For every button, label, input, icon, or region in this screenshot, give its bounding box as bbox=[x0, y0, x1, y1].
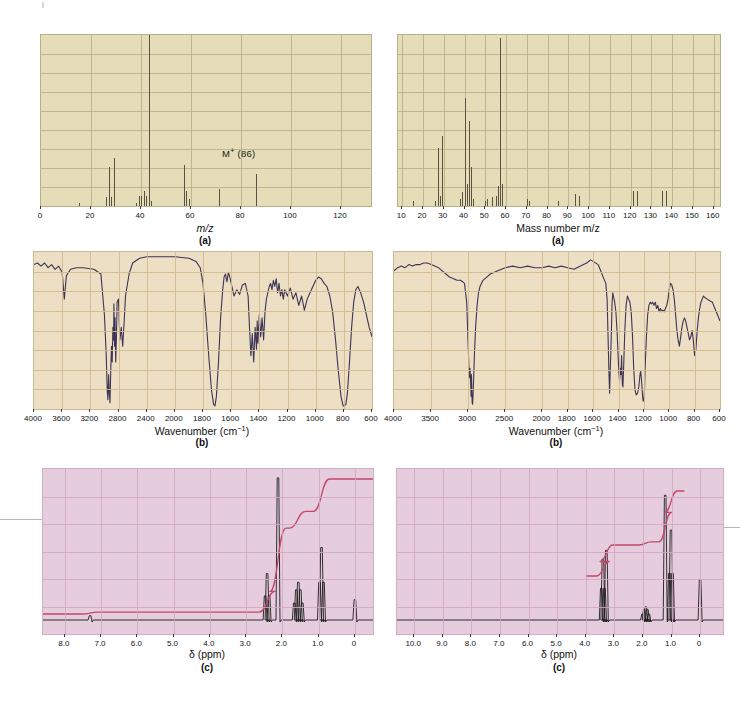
tickmark-10 bbox=[699, 634, 700, 637]
tickmark-2 bbox=[140, 206, 141, 209]
nmr-spectrum-line bbox=[43, 478, 373, 622]
tickmark-4 bbox=[528, 634, 529, 637]
gridline-h-0 bbox=[398, 54, 720, 55]
gridline-h-2 bbox=[34, 311, 372, 312]
ms-peak bbox=[496, 196, 497, 206]
tickmark-4 bbox=[484, 206, 485, 209]
ms-peak bbox=[467, 184, 468, 206]
gridline-h-2 bbox=[394, 311, 720, 312]
tick-label-3: 2800 bbox=[109, 414, 127, 423]
gridline-h-2 bbox=[43, 552, 373, 553]
tick-label-0: 4000 bbox=[384, 414, 402, 423]
ms-peak bbox=[460, 199, 461, 206]
tick-label-9: 1000 bbox=[659, 414, 677, 423]
tickmark-5 bbox=[556, 634, 557, 637]
tickmark-10 bbox=[694, 409, 695, 412]
tickmark-5 bbox=[290, 206, 291, 209]
ms-peak bbox=[500, 38, 501, 206]
ir-right-sublabel: (b) bbox=[393, 437, 719, 448]
tick-label-3: 7.0 bbox=[493, 639, 504, 648]
gridline-h-4 bbox=[398, 130, 720, 131]
gridline-v-12 bbox=[651, 35, 652, 206]
tick-label-1: 9.0 bbox=[436, 639, 447, 648]
ms-peak bbox=[111, 197, 112, 206]
ms-peak bbox=[184, 165, 185, 206]
tick-label-1: 20 bbox=[86, 211, 95, 220]
gridline-h-7 bbox=[41, 187, 371, 188]
gridline-v-6 bbox=[527, 35, 528, 206]
tickmark-4 bbox=[541, 409, 542, 412]
panel-nmr-right: 10.09.08.07.06.05.04.03.02.01.00 δ (ppm)… bbox=[396, 468, 722, 678]
scan-artifact-top bbox=[42, 2, 44, 8]
gridline-v-15 bbox=[714, 35, 715, 206]
ms-peak bbox=[256, 174, 257, 207]
tick-label-11: 600 bbox=[712, 414, 725, 423]
gridline-v-10 bbox=[610, 35, 611, 206]
ms-peak bbox=[575, 194, 576, 206]
gridline-v-3 bbox=[241, 35, 242, 206]
tick-label-5: 60 bbox=[501, 211, 510, 220]
gridline-h-4 bbox=[34, 350, 372, 351]
gridline-h-0 bbox=[43, 497, 373, 498]
tickmark-13 bbox=[671, 206, 672, 209]
ms-peak bbox=[144, 191, 145, 206]
nmr-left-axis-title-text: δ (ppm) bbox=[189, 648, 225, 660]
tick-label-2: 8.0 bbox=[465, 639, 476, 648]
ms-peak bbox=[666, 191, 667, 206]
ms-right-plot-area bbox=[397, 34, 721, 207]
ms-peak bbox=[219, 189, 220, 206]
tick-label-7: 1600 bbox=[221, 414, 239, 423]
tickmark-1 bbox=[90, 206, 91, 209]
tickmark-0 bbox=[413, 634, 414, 637]
tickmark-3 bbox=[118, 409, 119, 412]
tick-label-11: 120 bbox=[623, 211, 636, 220]
gridline-h-4 bbox=[394, 350, 720, 351]
gridline-h-1 bbox=[34, 291, 372, 292]
tick-label-12: 600 bbox=[364, 414, 377, 423]
tickmark-6 bbox=[526, 206, 527, 209]
nmr-right-sublabel: (c) bbox=[396, 662, 722, 673]
ms-peak bbox=[498, 186, 499, 207]
tick-label-4: 2400 bbox=[137, 414, 155, 423]
tick-label-1: 20 bbox=[417, 211, 426, 220]
tickmark-4 bbox=[240, 206, 241, 209]
tickmark-0 bbox=[393, 409, 394, 412]
gridline-h-3 bbox=[398, 111, 720, 112]
gridline-h-3 bbox=[34, 331, 372, 332]
tick-label-3: 5.0 bbox=[167, 639, 178, 648]
gridline-h-6 bbox=[398, 168, 720, 169]
ms-peak bbox=[637, 191, 638, 206]
tick-label-6: 1600 bbox=[583, 414, 601, 423]
tick-label-9: 1200 bbox=[278, 414, 296, 423]
tickmark-7 bbox=[230, 409, 231, 412]
ms-peak bbox=[141, 196, 142, 206]
ir-left-axis-title-text: Wavenumber (cm−1) bbox=[155, 425, 250, 437]
ms-left-axis-title-text: m/z bbox=[197, 222, 214, 234]
gridline-v-2 bbox=[191, 35, 192, 206]
ms-annotation-0: M+ (86) bbox=[222, 146, 255, 159]
tick-label-5: 3.0 bbox=[240, 639, 251, 648]
tickmark-8 bbox=[643, 409, 644, 412]
tickmark-5 bbox=[567, 409, 568, 412]
tick-label-5: 5.0 bbox=[551, 639, 562, 648]
ms-left-axis-title: m/z bbox=[40, 222, 370, 234]
tick-label-6: 4.0 bbox=[579, 639, 590, 648]
tickmark-8 bbox=[258, 409, 259, 412]
tickmark-10 bbox=[315, 409, 316, 412]
tick-label-0: 0 bbox=[38, 211, 42, 220]
gridline-h-0 bbox=[34, 272, 372, 273]
tick-label-4: 4.0 bbox=[203, 639, 214, 648]
tickmark-9 bbox=[671, 634, 672, 637]
tickmark-4 bbox=[146, 409, 147, 412]
gridline-h-3 bbox=[397, 579, 723, 580]
ms-peak bbox=[465, 98, 466, 206]
tickmark-10 bbox=[609, 206, 610, 209]
gridline-h-6 bbox=[34, 389, 372, 390]
tickmark-7 bbox=[613, 634, 614, 637]
ms-peak bbox=[440, 196, 441, 206]
ms-peak bbox=[149, 35, 150, 206]
tickmark-2 bbox=[443, 206, 444, 209]
tickmark-9 bbox=[287, 409, 288, 412]
panel-ms-right: 102030405060708090100110120130140150160 … bbox=[397, 34, 719, 239]
gridline-h-5 bbox=[34, 370, 372, 371]
